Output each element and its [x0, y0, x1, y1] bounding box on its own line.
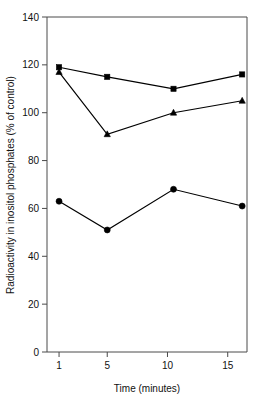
- data-point-circle: [171, 186, 177, 192]
- y-tick-label: 80: [28, 155, 40, 166]
- data-point-square: [105, 74, 110, 79]
- x-tick-label: 5: [104, 360, 110, 371]
- y-tick-label: 0: [33, 347, 39, 358]
- y-axis-title: Radioactivity in inositol phosphates (% …: [5, 76, 16, 294]
- chart-figure: 151015 020406080100120140 Time (minutes)…: [0, 0, 261, 403]
- data-point-circle: [56, 198, 62, 204]
- data-point-circle: [104, 227, 110, 233]
- y-tick-label: 100: [22, 107, 39, 118]
- data-point-square: [240, 72, 245, 77]
- data-point-square: [171, 86, 176, 91]
- line-chart-canvas: 151015 020406080100120140 Time (minutes)…: [0, 0, 261, 403]
- data-point-circle: [239, 203, 245, 209]
- x-axis-title: Time (minutes): [114, 383, 180, 394]
- y-tick-label: 120: [22, 59, 39, 70]
- x-tick-label: 1: [56, 360, 62, 371]
- x-tick-label: 15: [222, 360, 234, 371]
- x-tick-label: 10: [162, 360, 174, 371]
- y-tick-label: 60: [28, 203, 40, 214]
- y-tick-label: 20: [28, 299, 40, 310]
- y-tick-label: 40: [28, 251, 40, 262]
- y-tick-label: 140: [22, 12, 39, 23]
